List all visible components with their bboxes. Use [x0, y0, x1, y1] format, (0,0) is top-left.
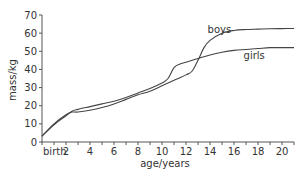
- x-tick-label: 4: [87, 146, 93, 157]
- y-axis: 010203040506070: [24, 10, 42, 148]
- line-girls: [42, 48, 294, 137]
- y-tick-label: 50: [24, 46, 37, 57]
- growth-chart: 010203040506070 birth2468101214161820 ag…: [0, 0, 308, 176]
- series-lines: [42, 28, 294, 136]
- x-tick-label: 8: [135, 146, 141, 157]
- x-tick-label: 2: [63, 146, 69, 157]
- x-tick-label: 20: [276, 146, 289, 157]
- y-tick-label: 70: [24, 10, 37, 21]
- y-tick-label: 10: [24, 118, 37, 129]
- y-axis-title: mass/kg: [7, 59, 18, 101]
- y-tick-label: 60: [24, 28, 37, 39]
- x-tick-label: 10: [156, 146, 169, 157]
- x-tick-label: 14: [204, 146, 217, 157]
- series-label-boys: boys: [208, 24, 232, 35]
- x-tick-label: 12: [180, 146, 193, 157]
- x-tick-label: 18: [252, 146, 265, 157]
- x-axis: birth2468101214161820: [42, 142, 294, 157]
- series-label-girls: girls: [244, 50, 265, 61]
- y-tick-label: 30: [24, 82, 37, 93]
- y-tick-label: 0: [31, 137, 37, 148]
- y-tick-label: 20: [24, 100, 37, 111]
- x-axis-title: age/years: [140, 158, 190, 169]
- x-tick-label: 6: [111, 146, 117, 157]
- y-tick-label: 40: [24, 64, 37, 75]
- x-tick-label: 16: [228, 146, 241, 157]
- line-boys: [42, 28, 294, 136]
